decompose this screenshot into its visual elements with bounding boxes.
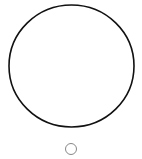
small-circle[interactable] — [66, 144, 77, 155]
large-circle — [9, 5, 134, 127]
drawing-canvas — [0, 0, 142, 159]
